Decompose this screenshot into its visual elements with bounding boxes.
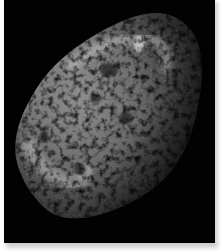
photo-panel	[4, 0, 215, 243]
moon-photo	[4, 0, 215, 243]
image-frame	[0, 0, 222, 252]
moon-body	[4, 0, 215, 243]
